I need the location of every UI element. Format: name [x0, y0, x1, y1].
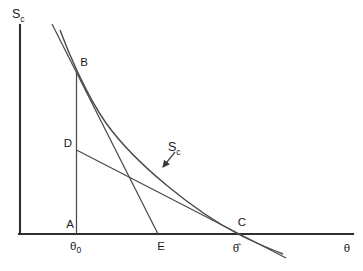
point-label-D: D: [64, 137, 72, 149]
point-label-B: B: [80, 56, 88, 68]
tick-label-theta-hat: θ̂: [233, 242, 241, 254]
curve-label-arrow-icon: [163, 152, 175, 167]
point-label-E: E: [157, 240, 165, 252]
tick-label-theta0: θ0: [70, 240, 81, 255]
diagram-svg: Sc θ Sc A B C D E θ0 θ̂: [0, 0, 363, 271]
tangent-line-at-B: [52, 24, 158, 234]
x-axis-label: θ: [344, 242, 350, 254]
figure-canvas: Sc θ Sc A B C D E θ0 θ̂: [0, 0, 363, 271]
point-label-A: A: [66, 218, 74, 230]
y-axis-label: Sc: [12, 7, 25, 24]
point-label-C: C: [238, 216, 246, 228]
curve-label: Sc: [168, 140, 181, 157]
